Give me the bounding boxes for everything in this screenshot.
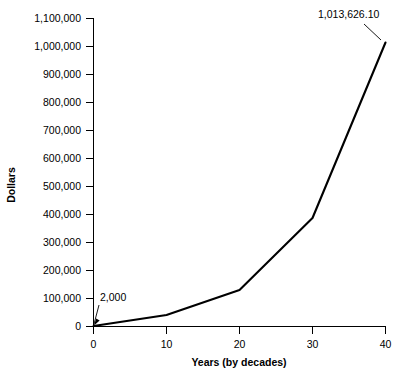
- y-tick-label-800000: 800,000: [43, 96, 81, 108]
- y-tick-label-0: 0: [75, 320, 81, 332]
- y-tick-label-1000000: 1,000,000: [34, 40, 81, 52]
- line-chart: 1,100,000 1,000,000 900,000 800,000 700,…: [0, 0, 401, 374]
- y-tick-label-300000: 300,000: [43, 236, 81, 248]
- y-tick-label-600000: 600,000: [43, 152, 81, 164]
- y-tick-label-100000: 100,000: [43, 292, 81, 304]
- y-tick-label-700000: 700,000: [43, 124, 81, 136]
- x-axis-title: Years (by decades): [191, 356, 286, 368]
- y-tick-label-1100000: 1,100,000: [34, 12, 81, 24]
- chart-canvas: 1,100,000 1,000,000 900,000 800,000 700,…: [0, 0, 401, 374]
- y-tick-label-400000: 400,000: [43, 208, 81, 220]
- annotation-end-label: 1,013,626.10: [318, 8, 379, 20]
- x-tick-label-0: 0: [91, 338, 97, 350]
- x-tick-label-10: 10: [161, 338, 173, 350]
- y-tick-label-200000: 200,000: [43, 264, 81, 276]
- x-tick-label-40: 40: [380, 338, 392, 350]
- y-tick-label-900000: 900,000: [43, 68, 81, 80]
- annotation-start-label: 2,000: [100, 291, 126, 303]
- x-tick-label-30: 30: [307, 338, 319, 350]
- y-axis-title: Dollars: [5, 167, 17, 203]
- y-tick-label-500000: 500,000: [43, 180, 81, 192]
- x-tick-label-20: 20: [234, 338, 246, 350]
